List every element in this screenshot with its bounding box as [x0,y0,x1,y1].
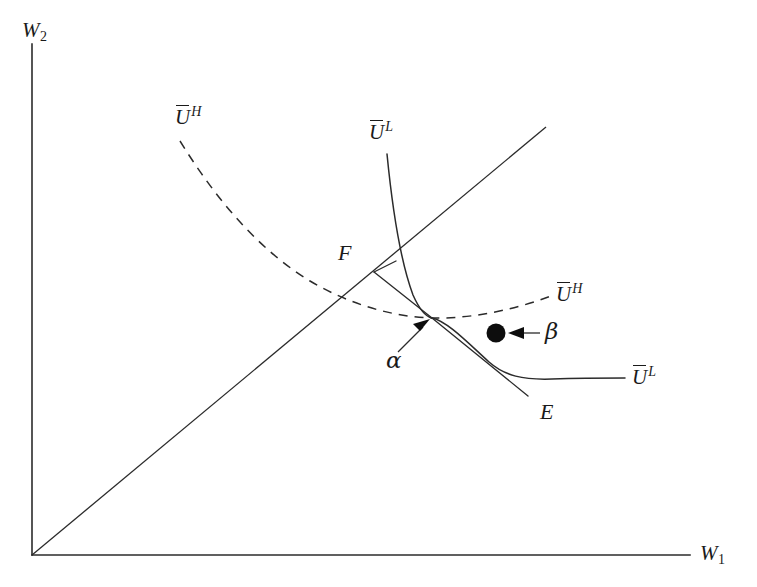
forty-five-degree-line [32,127,546,555]
beta-dot-marker [487,324,506,343]
y-axis-label: W2 [22,20,47,44]
u-low-label-right: UL [632,365,656,388]
figure-canvas [0,0,757,587]
u-high-label-left: UH [175,105,201,128]
segment-f-stub [374,261,396,272]
segment-f-alpha [374,272,432,318]
x-axis-label: W1 [700,543,725,567]
segment-alpha-e [432,318,528,396]
beta-arrowhead [508,327,524,339]
u-high-curve [180,141,551,318]
point-f-label: F [338,242,351,264]
beta-label: β [545,320,558,343]
u-high-label-right: UH [556,282,582,305]
u-low-label-top: UL [369,120,393,143]
u-low-curve [387,154,625,379]
point-e-label: E [540,401,553,423]
alpha-label: α [386,349,402,372]
indifference-curve-figure: W2 W1 UH UH UL UL α β F E [0,0,757,587]
